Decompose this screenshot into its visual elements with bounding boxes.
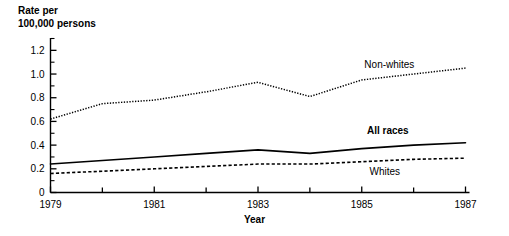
y-axis-tick-label: 0.2 <box>11 163 45 174</box>
series-annotation-whites: Whites <box>370 166 401 177</box>
series-annotation-non-whites: Non-whites <box>364 59 414 70</box>
x-axis-title: Year <box>0 214 509 227</box>
x-axis-tick-label: 1981 <box>132 199 176 210</box>
chart-figure: Rate per 100,000 persons 00.20.40.60.81.… <box>0 0 509 236</box>
x-axis-tick-label: 1985 <box>340 199 384 210</box>
series-line-non-whites <box>51 68 466 119</box>
x-axis-tick-label: 1983 <box>236 199 280 210</box>
y-axis-tick-label: 1.2 <box>11 45 45 56</box>
series-annotation-all-races: All races <box>367 125 409 136</box>
x-axis-tick-label: 1979 <box>29 199 73 210</box>
y-axis-tick-label: 1.0 <box>11 69 45 80</box>
y-axis-tick-label: 0.4 <box>11 140 45 151</box>
y-axis-tick-label: 0 <box>11 187 45 198</box>
y-axis-tick-label: 0.6 <box>11 116 45 127</box>
x-axis-tick-label: 1987 <box>444 199 488 210</box>
y-axis-tick-label: 0.8 <box>11 92 45 103</box>
series-line-all-races <box>51 143 466 164</box>
